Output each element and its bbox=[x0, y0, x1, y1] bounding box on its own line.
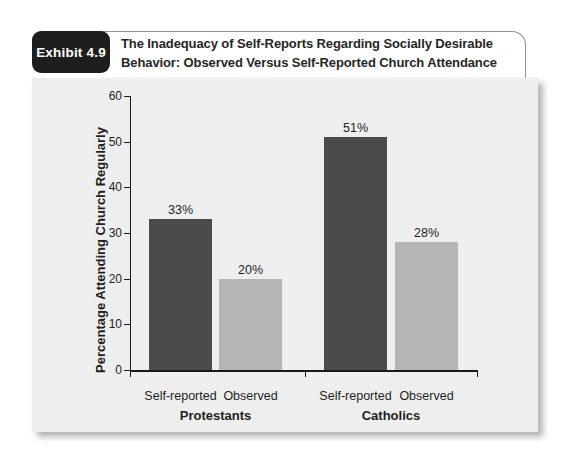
bar-catholics-observed bbox=[395, 242, 458, 370]
exhibit-title-line1: The Inadequacy of Self-Reports Regarding… bbox=[121, 35, 497, 54]
x-tick-mark bbox=[130, 370, 131, 377]
bar-value-label: 51% bbox=[326, 121, 386, 135]
y-tick-mark bbox=[124, 324, 130, 325]
group-label-catholics: Catholics bbox=[331, 408, 451, 423]
y-tick-mark bbox=[124, 142, 130, 143]
group-label-protestants: Protestants bbox=[156, 408, 276, 423]
bar-category-label: Observed bbox=[203, 389, 299, 403]
y-tick-mark bbox=[124, 279, 130, 280]
y-axis-title: Percentage Attending Church Regularly bbox=[93, 100, 111, 400]
exhibit-title-line2: Behavior: Observed Versus Self-Reported … bbox=[121, 54, 497, 73]
bar-category-label: Observed bbox=[379, 389, 475, 403]
bar-value-label: 20% bbox=[221, 263, 281, 277]
bar-protestants-self-reported bbox=[149, 219, 212, 370]
x-axis-line bbox=[130, 370, 477, 372]
y-axis-line bbox=[130, 96, 131, 372]
chart-panel: 010203040506033%Self-reported20%Observed… bbox=[32, 78, 538, 432]
exhibit-badge-label: Exhibit 4.9 bbox=[36, 45, 106, 60]
y-tick-mark bbox=[124, 187, 130, 188]
bar-protestants-observed bbox=[219, 279, 282, 370]
x-tick-mark bbox=[477, 370, 478, 377]
bar-catholics-self-reported bbox=[324, 137, 387, 370]
bar-value-label: 33% bbox=[151, 203, 211, 217]
y-tick-mark bbox=[124, 96, 130, 97]
bar-value-label: 28% bbox=[397, 226, 457, 240]
x-tick-mark bbox=[305, 370, 306, 377]
exhibit-title: The Inadequacy of Self-Reports Regarding… bbox=[121, 35, 497, 72]
page: Exhibit 4.9 The Inadequacy of Self-Repor… bbox=[0, 0, 572, 464]
exhibit-badge: Exhibit 4.9 bbox=[32, 31, 110, 73]
y-tick-mark bbox=[124, 233, 130, 234]
